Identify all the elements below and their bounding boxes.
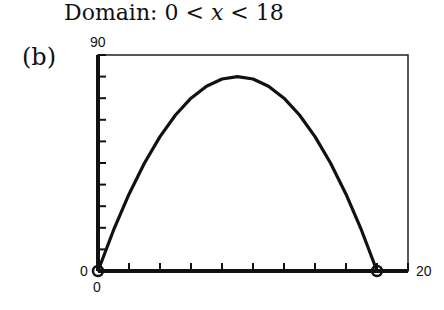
- plot-area: [0, 0, 444, 310]
- data-curve: [98, 77, 377, 271]
